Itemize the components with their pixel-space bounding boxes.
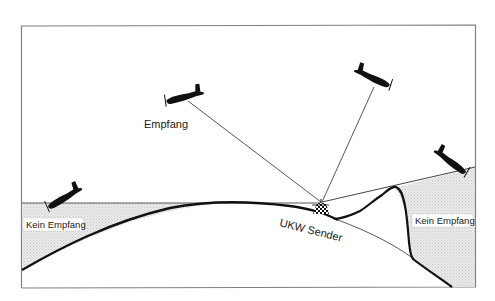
frame-border: [22, 26, 231, 138]
no-reception-zone-left: [22, 203, 230, 270]
label-transmitter: UKW Sender: [279, 216, 345, 243]
label-reception: Empfang: [144, 118, 188, 130]
earth-curve-thin: [338, 220, 414, 259]
label-no-reception-right: Kein Empfang: [415, 215, 475, 226]
aircraft-icon-1: [164, 83, 205, 106]
signal-line-plane-2: [322, 87, 374, 202]
signal-line-plane-1: [188, 101, 321, 202]
label-no-reception-left-box: Kein Empfang: [23, 218, 86, 231]
label-no-reception-right-box: Kein Empfang: [412, 214, 475, 227]
vhf-propagation-diagram: Empfang Kein Empfang Kein Empfang UKW Se…: [0, 0, 495, 301]
frame-outline: [22, 25, 476, 288]
label-no-reception-left: Kein Empfang: [26, 219, 86, 230]
aircraft-icon-2: [352, 61, 395, 90]
